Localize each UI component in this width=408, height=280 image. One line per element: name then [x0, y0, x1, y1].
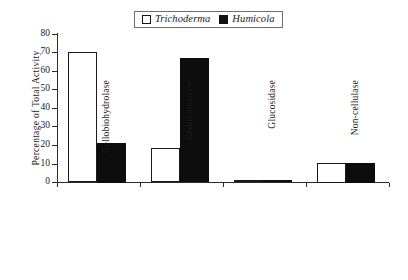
x-tick-mark — [57, 183, 58, 187]
y-axis-line — [57, 33, 58, 183]
x-tick-mark — [306, 183, 307, 187]
y-tick-label: 80 — [28, 29, 50, 39]
x-tick-mark — [140, 183, 141, 187]
y-tick-label: 40 — [28, 103, 50, 113]
plot-area: Percentage of Total Activity 80 70 60 50… — [0, 0, 408, 280]
x-axis-label-endoglucanase: Endoglucanase — [184, 80, 194, 190]
y-tick-label: 20 — [28, 140, 50, 150]
x-tick-mark — [389, 183, 390, 187]
y-tick-label: 50 — [28, 84, 50, 94]
y-tick-label: 70 — [28, 47, 50, 57]
x-axis-label-cellobiohydrolase: Cellobiohydrolase — [101, 80, 111, 190]
x-axis-label-glucosidase: Glucosidase — [267, 80, 277, 190]
bar-trichoderma-endoglucanase — [151, 148, 180, 183]
y-tick-label: 30 — [28, 122, 50, 132]
y-tick-label: 0 — [28, 177, 50, 187]
x-axis-label-non-cellulase: Non-cellulase — [350, 80, 360, 190]
bar-trichoderma-cellobiohydrolase — [68, 52, 97, 182]
x-tick-mark — [223, 183, 224, 187]
bar-trichoderma-glucosidase — [234, 180, 263, 183]
bar-trichoderma-non-cellulase — [317, 163, 346, 183]
y-tick-label: 60 — [28, 66, 50, 76]
chart-figure: Trichoderma Humicola Percentage of Total… — [0, 0, 408, 280]
y-tick-label: 10 — [28, 159, 50, 169]
y-axis-tick-labels: 80 70 60 50 40 30 20 10 0 — [26, 0, 50, 280]
